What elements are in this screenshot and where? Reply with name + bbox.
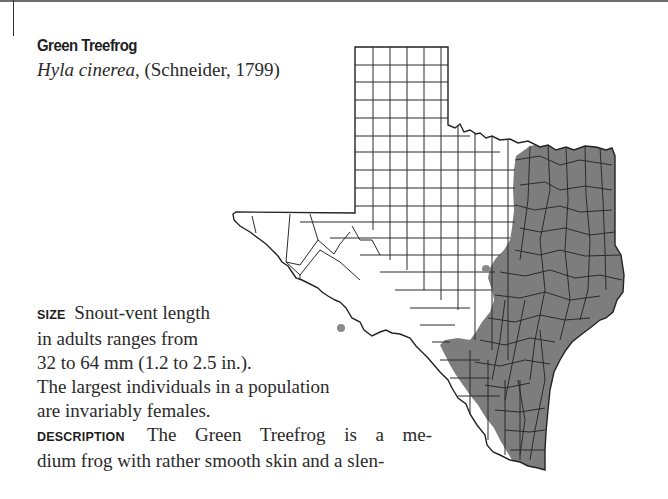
description-label: DESCRIPTION	[37, 430, 125, 444]
record-dot	[482, 265, 490, 273]
size-line-2: in adults ranges from	[37, 327, 432, 351]
size-label: SIZE	[37, 308, 66, 322]
description-line-1: DESCRIPTION The Green Treefrog is a me-	[37, 423, 432, 449]
size-line-4: The largest individuals in a population	[37, 375, 432, 399]
species-account-text: SIZE Snout-vent length in adults ranges …	[37, 301, 432, 473]
size-line-5: are invariably females.	[37, 399, 432, 423]
description-line-2: dium frog with rather smooth skin and a …	[37, 449, 432, 473]
size-line-1: SIZE Snout-vent length	[37, 301, 432, 327]
size-line-3: 32 to 64 mm (1.2 to 2.5 in.).	[37, 351, 432, 375]
